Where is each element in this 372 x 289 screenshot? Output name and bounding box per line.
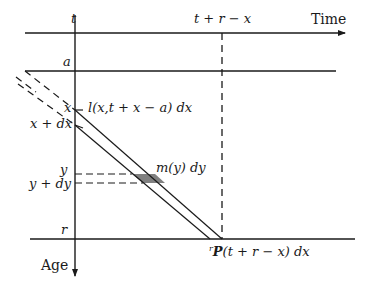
label-age: Age [41,258,68,272]
label-p-symbol: P [213,244,223,259]
label-l-expression: l(x,t + x − a) dx [88,101,192,114]
label-y-plus-dy: y + dy [29,177,71,190]
label-p-expression: rP(t + r − x) dx [209,245,310,258]
label-y: y [60,163,67,176]
label-a: a [63,55,71,68]
shaded-migration-region [132,174,165,183]
label-x-plus-dx: x + dx [30,117,72,130]
diagram-graphics [0,0,372,289]
label-t: t [71,12,76,25]
label-m-expression: m(y) dy [156,161,206,174]
label-time: Time [311,12,346,26]
label-r: r [61,223,67,236]
label-t-plus-r-minus-x: t + r − x [194,12,251,25]
lexis-diagram: t t + r − x Time Age a x x + dx y y + dy… [0,0,372,289]
label-x: x [64,101,71,114]
cohort-line-x-plus-dx [75,125,210,239]
label-p-args: (t + r − x) dx [223,244,310,259]
